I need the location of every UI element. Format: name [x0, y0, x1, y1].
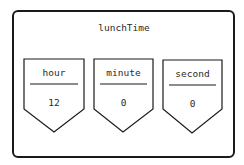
- field-label: second: [175, 68, 209, 79]
- object-name: lunchTime: [98, 22, 150, 33]
- field-label: minute: [106, 67, 141, 78]
- field-value: 0: [190, 98, 196, 109]
- field-label: hour: [43, 67, 66, 78]
- field-value: 12: [48, 97, 59, 108]
- field-value: 0: [121, 97, 127, 108]
- object-diagram: lunchTime hour 12 minute 0 second 0: [0, 0, 244, 165]
